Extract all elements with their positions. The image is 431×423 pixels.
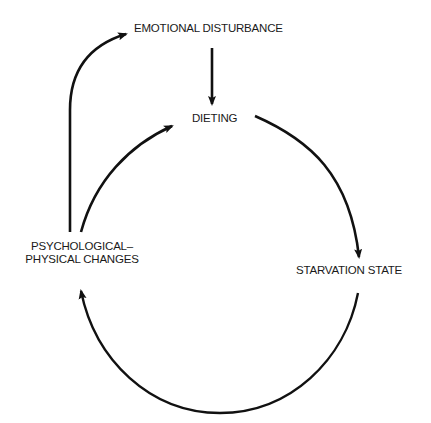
arrow-starvation-to-psych bbox=[81, 291, 358, 413]
node-psych-line1: PSYCHOLOGICAL– bbox=[14, 240, 150, 253]
arrow-psych-to-dieting bbox=[81, 126, 172, 232]
cycle-diagram: EMOTIONAL DISTURBANCE DIETING STARVATION… bbox=[0, 0, 431, 423]
arrow-psych-to-emotional bbox=[70, 34, 126, 232]
node-dieting: DIETING bbox=[192, 112, 237, 125]
node-psych-line2: PHYSICAL CHANGES bbox=[14, 253, 150, 266]
node-emotional-disturbance: EMOTIONAL DISTURBANCE bbox=[134, 22, 283, 35]
arrow-dieting-to-starvation bbox=[255, 116, 359, 257]
diagram-arrows bbox=[0, 0, 431, 423]
node-psychological-physical-changes: PSYCHOLOGICAL– PHYSICAL CHANGES bbox=[14, 240, 150, 266]
node-starvation-state: STARVATION STATE bbox=[296, 264, 402, 277]
